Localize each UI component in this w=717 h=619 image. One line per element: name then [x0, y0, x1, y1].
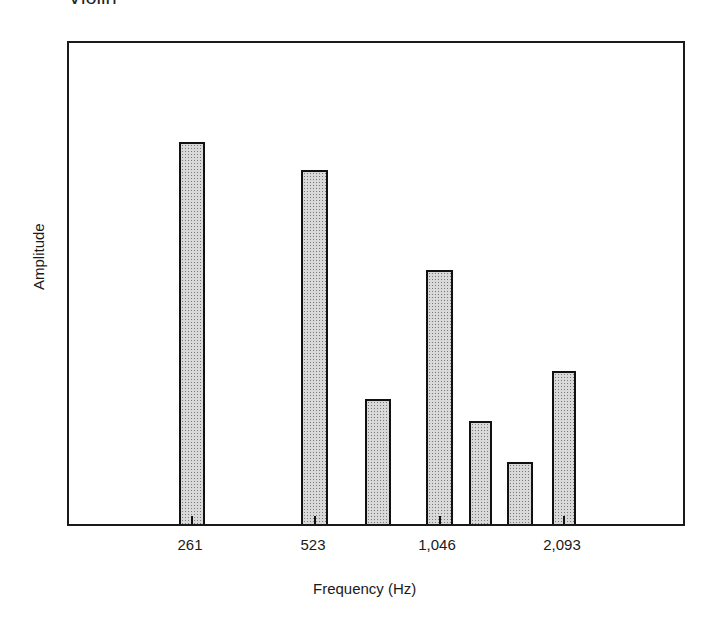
- x-axis-tick: [191, 516, 193, 524]
- top-caption-partial: Violin: [68, 0, 117, 9]
- bar-1307hz: [469, 421, 492, 524]
- bar-261hz: [179, 142, 205, 524]
- x-tick-label: 1,046: [418, 536, 456, 553]
- x-axis-title: Frequency (Hz): [313, 580, 416, 597]
- bar-1046hz: [426, 270, 453, 524]
- x-axis-tick: [439, 516, 441, 524]
- bar-784hz: [365, 399, 391, 524]
- x-tick-label: 523: [300, 536, 325, 553]
- bar-1568hz: [507, 462, 533, 524]
- x-tick-label: 261: [177, 536, 202, 553]
- x-axis-tick: [314, 516, 316, 524]
- x-axis-tick: [563, 516, 565, 524]
- bar-523hz: [301, 170, 328, 524]
- bar-2093hz: [552, 371, 576, 524]
- x-tick-label: 2,093: [543, 536, 581, 553]
- chart-frame: [67, 41, 685, 526]
- y-axis-title: Amplitude: [30, 223, 47, 290]
